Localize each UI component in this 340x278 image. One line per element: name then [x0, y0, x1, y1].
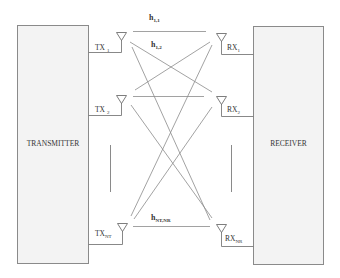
h11-label: h1,1	[149, 13, 160, 23]
tx2-feed	[89, 103, 122, 116]
tx1-label: TX1	[95, 43, 110, 53]
rx-labels: RX1 RX2 RXNR	[225, 43, 243, 244]
rxnr-label: RXNR	[225, 234, 243, 244]
rx-antennas	[217, 34, 227, 233]
h12-label: h1,2	[151, 40, 162, 50]
transmitter-block: TRANSMITTER	[18, 26, 89, 264]
link-tx2-rx1	[135, 42, 210, 90]
rx2-antenna-icon	[217, 97, 227, 105]
rx-feed-wires	[222, 41, 254, 247]
receiver-block: RECEIVER	[254, 27, 324, 265]
tx2-label: TX2	[95, 105, 110, 115]
channel-links	[130, 32, 212, 227]
tx-feed-wires	[89, 40, 123, 245]
link-tx2-rxnr	[131, 105, 212, 218]
link-txnt-rx1	[131, 45, 212, 216]
rx2-label: RX2	[227, 105, 240, 115]
channel-labels: h1,1 h1,2 hNT,NR	[149, 13, 171, 223]
txnt-antenna-icon	[118, 224, 128, 232]
tx2-antenna-icon	[117, 96, 127, 104]
link-tx1-rxnr	[132, 47, 210, 220]
rx1-antenna-icon	[217, 34, 227, 42]
tx-labels: TX1 TX2 TXNT	[95, 43, 112, 239]
receiver-label: RECEIVER	[270, 139, 307, 148]
tx-antennas	[117, 33, 128, 232]
mimo-diagram: TRANSMITTER RECEIVER	[0, 0, 340, 278]
tx1-feed	[89, 40, 122, 53]
txnt-label: TXNT	[95, 229, 112, 239]
transmitter-label: TRANSMITTER	[27, 139, 80, 148]
tx1-antenna-icon	[117, 33, 127, 41]
rxnr-antenna-icon	[217, 225, 227, 233]
hntnr-label: hNT,NR	[151, 213, 171, 223]
rx1-label: RX1	[227, 43, 240, 53]
